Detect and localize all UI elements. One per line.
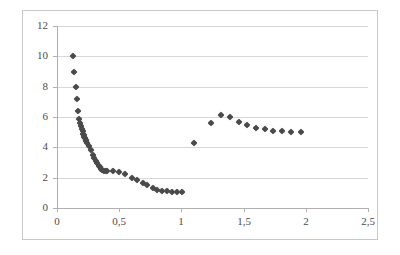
- x-axis-tick: [119, 208, 120, 212]
- gridline-horizontal: [57, 56, 368, 57]
- x-axis-tick-label: 0: [37, 216, 77, 227]
- y-axis-tick-label: 4: [20, 141, 48, 152]
- x-axis-tick: [368, 208, 369, 212]
- x-axis-tick-label: 1: [161, 216, 201, 227]
- x-axis-tick: [57, 208, 58, 212]
- y-axis-tick-label: 6: [20, 111, 48, 122]
- y-axis-tick-label: 10: [20, 50, 48, 61]
- y-axis-tick-label: 8: [20, 81, 48, 92]
- y-axis-tick: [53, 147, 57, 148]
- y-axis-tick-label: 0: [20, 202, 48, 213]
- y-axis-tick: [53, 178, 57, 179]
- y-axis-tick-label: 12: [20, 20, 48, 31]
- y-axis-tick: [53, 117, 57, 118]
- x-axis-tick-label: 2,5: [348, 216, 388, 227]
- x-axis-tick: [306, 208, 307, 212]
- x-axis-tick-label: 1,5: [224, 216, 264, 227]
- y-axis-tick-label: 2: [20, 172, 48, 183]
- gridline-horizontal: [57, 26, 368, 27]
- y-axis-tick: [53, 87, 57, 88]
- scatter-chart: 024681012 00,511,522,5: [0, 0, 400, 255]
- chart-frame: [22, 10, 378, 240]
- gridline-horizontal: [57, 87, 368, 88]
- x-axis-line: [57, 208, 368, 209]
- x-axis-tick-label: 0,5: [99, 216, 139, 227]
- y-axis-tick: [53, 26, 57, 27]
- gridline-horizontal: [57, 117, 368, 118]
- gridline-horizontal: [57, 178, 368, 179]
- y-axis-tick: [53, 56, 57, 57]
- x-axis-tick-label: 2: [286, 216, 326, 227]
- gridline-horizontal: [57, 147, 368, 148]
- x-axis-tick: [181, 208, 182, 212]
- x-axis-tick: [244, 208, 245, 212]
- y-axis-line: [57, 26, 58, 209]
